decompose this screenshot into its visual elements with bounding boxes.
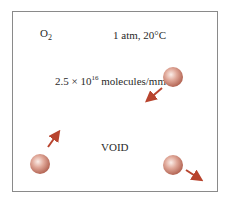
molecules-diagram	[0, 0, 232, 203]
velocity-arrow-icon	[48, 133, 58, 147]
molecule-lower-left	[30, 133, 58, 174]
molecule-lower-right	[163, 155, 200, 179]
velocity-arrow-icon	[148, 88, 162, 100]
velocity-arrow-icon	[186, 170, 200, 179]
molecule-top-right	[148, 67, 183, 100]
